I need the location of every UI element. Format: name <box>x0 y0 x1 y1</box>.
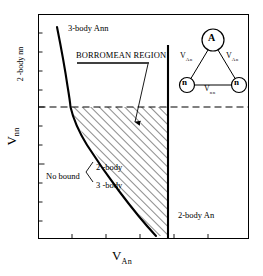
inset-node-a-label: A <box>208 33 215 43</box>
x-axis-title: VAn <box>112 249 132 266</box>
x-axis-title-sub: An <box>121 257 132 266</box>
x-axis-title-main: V <box>112 248 121 263</box>
label-no-bound-3body: 3 -body <box>96 181 122 190</box>
label-2body-an: 2-body An <box>178 211 214 220</box>
inset-vnn-sub: nn <box>210 90 216 95</box>
inset-van-left-sub: An <box>186 57 193 62</box>
label-borromean-region: BORROMEAN REGION <box>76 51 166 60</box>
y-axis-title: Vnn <box>5 116 22 156</box>
label-3body-ann: 3-body Ann <box>68 24 108 33</box>
chart-svg <box>0 0 263 276</box>
phase-diagram-figure: 3-body Ann BORROMEAN REGION 2 -body nn N… <box>0 0 263 276</box>
inset-edge-label-vnn: Vnn <box>204 85 216 96</box>
label-no-bound: No bound <box>46 172 80 181</box>
label-no-bound-2body: 2 -body <box>96 163 122 172</box>
inset-edge-label-van-right: VAn <box>226 52 239 63</box>
inset-van-right-sub: An <box>232 57 239 62</box>
inset-node-n2-label: n <box>234 78 239 87</box>
inset-edge-label-van-left: VAn <box>180 52 193 63</box>
y-axis-title-main: V <box>4 136 19 145</box>
inset-node-n1-label: n <box>182 78 187 87</box>
y-axis-title-sub: nn <box>12 127 21 136</box>
label-2body-nn: 2 -body nn <box>17 36 25 92</box>
